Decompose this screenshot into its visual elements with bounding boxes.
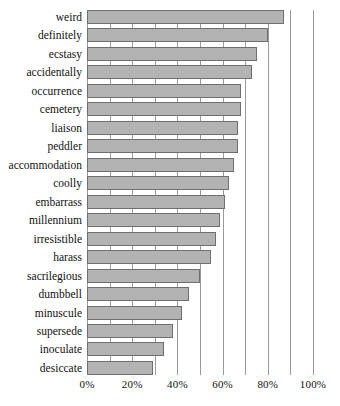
bar-row [87, 232, 313, 246]
bar [87, 250, 211, 264]
y-axis-category-labels: weirddefinitelyecstasyaccidentallyoccurr… [0, 10, 82, 375]
bar [87, 47, 257, 61]
y-axis-label: sacrilegious [0, 269, 82, 283]
bar-row [87, 342, 313, 356]
bar [87, 324, 173, 338]
bar-row [87, 269, 313, 283]
bar [87, 65, 252, 79]
bar [87, 287, 189, 301]
y-axis-label: embarrass [0, 195, 82, 209]
bar-row [87, 324, 313, 338]
y-axis-label: inoculate [0, 342, 82, 356]
bar-row [87, 84, 313, 98]
bar-row [87, 306, 313, 320]
bar [87, 342, 164, 356]
bar [87, 10, 284, 24]
y-axis-label: accidentally [0, 65, 82, 79]
bar [87, 84, 241, 98]
y-axis-label: peddler [0, 139, 82, 153]
x-axis-tick-labels: 0%20%40%60%80%100% [87, 378, 313, 398]
bar-row [87, 250, 313, 264]
y-axis-label: dumbbell [0, 287, 82, 301]
bar [87, 195, 225, 209]
bar [87, 121, 238, 135]
bar-row [87, 28, 313, 42]
bar-row [87, 10, 313, 24]
y-axis-label: irresistible [0, 232, 82, 246]
bar-row [87, 102, 313, 116]
bar-series [87, 10, 313, 375]
bar-row [87, 47, 313, 61]
bar-row [87, 195, 313, 209]
x-axis-tick-label: 100% [300, 378, 326, 390]
y-axis-label: cemetery [0, 102, 82, 116]
gridline-100 [313, 10, 314, 375]
plot-area [87, 10, 313, 375]
y-axis-label: weird [0, 10, 82, 24]
bar [87, 361, 153, 375]
bar [87, 158, 234, 172]
y-axis-label: harass [0, 250, 82, 264]
bar-row [87, 176, 313, 190]
y-axis-label: supersede [0, 324, 82, 338]
bar-row [87, 361, 313, 375]
y-axis-label: occurrence [0, 84, 82, 98]
bar-row [87, 121, 313, 135]
y-axis-label: desiccate [0, 361, 82, 375]
x-axis-tick-label: 60% [212, 378, 233, 390]
bar-chart: weirddefinitelyecstasyaccidentallyoccurr… [0, 0, 340, 406]
bar [87, 213, 220, 227]
bar [87, 269, 200, 283]
bar [87, 176, 229, 190]
bar [87, 306, 182, 320]
bar-row [87, 213, 313, 227]
bar-row [87, 287, 313, 301]
y-axis-label: liaison [0, 121, 82, 135]
bar [87, 28, 268, 42]
x-axis-tick-label: 40% [167, 378, 188, 390]
y-axis-label: definitely [0, 28, 82, 42]
x-axis-tick-label: 80% [257, 378, 278, 390]
y-axis-label: coolly [0, 176, 82, 190]
bar [87, 139, 238, 153]
bar-row [87, 65, 313, 79]
y-axis-label: accommodation [0, 158, 82, 172]
y-axis-label: minuscule [0, 306, 82, 320]
x-axis-tick-label: 20% [122, 378, 143, 390]
bar [87, 102, 241, 116]
bar-row [87, 158, 313, 172]
y-axis-label: millennium [0, 213, 82, 227]
y-axis-label: ecstasy [0, 47, 82, 61]
bar [87, 232, 216, 246]
bar-row [87, 139, 313, 153]
x-axis-tick-label: 0% [79, 378, 94, 390]
